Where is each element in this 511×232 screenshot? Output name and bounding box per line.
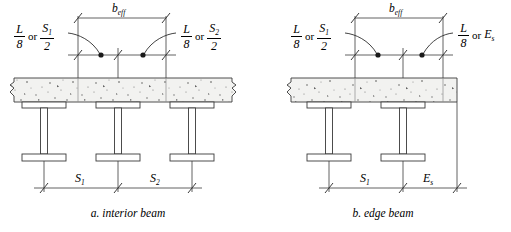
spacing-label-s1-b: S1 [360, 172, 370, 187]
left-effective-width-label-a: L 8 or S1 2 [14, 22, 54, 52]
i-beam [307, 102, 351, 161]
spacing-label-s2-a: S2 [150, 172, 160, 187]
fraction-l-over-8: L 8 [458, 22, 469, 49]
beff-dimension-label-b: beff [389, 3, 402, 17]
composite-beam-effective-width-figure: beff L 8 or S1 2 L 8 or [0, 0, 511, 232]
left-effective-width-label-b: L 8 or S1 2 [291, 22, 331, 52]
right-effective-width-label-a: L 8 or S2 2 [181, 22, 221, 52]
panel-caption-b: b. edge beam [255, 208, 511, 220]
fraction-s2-over-2: S2 2 [207, 22, 221, 52]
term-edge-distance: Es [484, 28, 494, 43]
edge-distance-label-b: Es [423, 172, 433, 187]
i-beam [22, 102, 66, 161]
i-beam [381, 102, 425, 161]
i-beam [170, 102, 214, 161]
edge-beam-panel: beff L 8 or S1 2 L 8 or Es [255, 0, 511, 232]
leader-dot-right [140, 52, 145, 57]
leader-dot-left [98, 52, 103, 57]
i-beam [96, 102, 140, 161]
panel-caption-a: a. interior beam [0, 208, 256, 220]
leader-dot-left [375, 52, 380, 57]
fraction-s1-over-2: S1 2 [317, 22, 331, 52]
leader-dot-right [419, 52, 424, 57]
right-effective-width-label-b: L 8 or Es [458, 22, 494, 49]
beff-dimension-label-a: beff [112, 3, 125, 17]
fraction-s1-over-2: S1 2 [40, 22, 54, 52]
fraction-l-over-8: L 8 [291, 23, 302, 50]
fraction-l-over-8: L 8 [181, 23, 192, 50]
spacing-label-s1-a: S1 [75, 172, 85, 187]
fraction-l-over-8: L 8 [14, 23, 25, 50]
interior-beam-panel: beff L 8 or S1 2 L 8 or [0, 0, 256, 232]
